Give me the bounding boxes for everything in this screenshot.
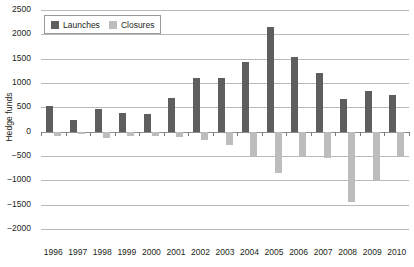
x-axis-tick [213,132,214,136]
bar-closures-2003 [226,132,233,146]
y-axis-tick-label: 1000 [0,77,31,87]
y-axis-tick-label: 0 [0,126,31,136]
bar-launches-2000 [144,114,151,132]
bar-closures-2007 [324,132,331,159]
bar-launches-2006 [291,57,298,131]
y-axis-tick-label: −2000 [0,223,31,233]
bar-closures-2001 [176,132,183,137]
bar-closures-2004 [250,132,257,156]
bar-closures-2008 [348,132,355,203]
bar-closures-1996 [54,132,61,136]
bar-launches-2007 [316,73,323,131]
gridline [41,83,409,84]
x-axis-tick [164,132,165,136]
bar-launches-2009 [365,91,372,131]
bar-launches-2005 [267,27,274,132]
y-axis-tick-label: −1500 [0,199,31,209]
legend-swatch-launches [51,21,59,29]
plot-area: 25002000150010005000−500−1000−1500−2000 [41,10,409,229]
x-axis-tick [188,132,189,136]
bar-launches-2003 [218,78,225,132]
x-axis-tick [237,132,238,136]
bar-closures-2005 [275,132,282,173]
bar-closures-1997 [78,132,85,134]
legend-label-launches: Launches [63,20,100,30]
x-axis-tick [384,132,385,136]
x-axis-tick [66,132,67,136]
gridline [41,229,409,230]
bar-closures-2006 [299,132,306,158]
bar-launches-2001 [168,98,175,132]
bar-launches-1997 [70,120,77,131]
bar-closures-2000 [152,132,159,136]
bar-launches-1996 [46,106,53,132]
bar-closures-2009 [373,132,380,182]
y-axis-tick-label: −1000 [0,174,31,184]
bar-closures-2002 [201,132,208,141]
bar-launches-1999 [119,113,126,131]
x-axis-tick [41,132,42,136]
y-axis-tick-label: 2000 [0,28,31,38]
bar-launches-2004 [242,62,249,132]
bar-closures-2010 [397,132,404,158]
bar-launches-2010 [389,95,396,132]
gridline [41,10,409,11]
x-axis-tick [409,132,410,136]
y-axis-title: Hedge funds [4,82,14,152]
bar-launches-2002 [193,78,200,132]
x-axis-tick [360,132,361,136]
y-axis-tick-label: −500 [0,150,31,160]
gridline [41,59,409,60]
gridline [41,205,409,206]
legend-label-closures: Closures [121,20,155,30]
x-axis-tick [262,132,263,136]
x-axis-tick [286,132,287,136]
bar-closures-1999 [127,132,134,136]
bar-launches-2008 [340,99,347,132]
bar-launches-1998 [95,109,102,132]
x-axis-tick [311,132,312,136]
y-axis-tick-label: 500 [0,101,31,111]
gridline [41,34,409,35]
legend-item-launches: Launches [51,20,100,30]
x-axis-tick [139,132,140,136]
y-axis-tick-label: 2500 [0,4,31,14]
bar-closures-1998 [103,132,110,138]
x-axis-tick [90,132,91,136]
legend-swatch-closures [109,21,117,29]
chart-legend: Launches Closures [44,15,161,34]
x-axis-tick-label: 2010 [380,247,414,257]
legend-item-closures: Closures [109,20,155,30]
y-axis-tick-label: 1500 [0,53,31,63]
x-axis-tick [115,132,116,136]
x-axis-tick [335,132,336,136]
hedge-funds-bar-chart: Hedge funds 25002000150010005000−500−100… [0,0,414,267]
